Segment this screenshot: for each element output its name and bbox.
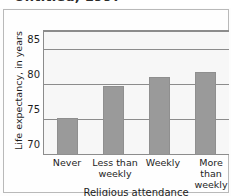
x-tick-label-line: weekly [91, 168, 139, 179]
bar-slot [137, 32, 183, 155]
y-tick-label: 80 [27, 68, 40, 79]
x-tick-label: Less thanweekly [91, 157, 139, 190]
y-tick-label: 85 [27, 33, 40, 44]
chart-figure: Untitled, 1997 Life expectancy, in years… [0, 0, 231, 196]
plot-area: 70758085 [43, 30, 229, 155]
bar [195, 72, 216, 155]
y-axis-title: Life expectancy, in years [13, 31, 24, 151]
y-tick-label: 70 [27, 139, 40, 150]
bar-slot [90, 32, 136, 155]
clipped-title-strip: Untitled, 1997 [0, 0, 231, 8]
chart-title: Untitled, 1997 [14, 0, 122, 4]
x-tick-label-line: Never [43, 157, 91, 168]
x-axis-tick-labels: NeverLess thanweeklyWeeklyMore thanweekl… [43, 157, 231, 190]
bar [103, 86, 124, 155]
x-tick-label-line: More than [187, 157, 231, 179]
x-tick-label-line: Less than [91, 157, 139, 168]
bar [57, 118, 78, 155]
bar-slot [183, 32, 229, 155]
figure-frame: Life expectancy, in years 70758085 Never… [3, 9, 229, 193]
x-tick-label: Weekly [139, 157, 187, 190]
x-tick-label-line: Weekly [139, 157, 187, 168]
x-tick-label: Never [43, 157, 91, 190]
plot-inner: 70758085 [44, 32, 229, 155]
bar-slot [44, 32, 90, 155]
bar-series [44, 32, 229, 155]
y-tick-label: 75 [27, 103, 40, 114]
bar [149, 77, 170, 155]
x-tick-label: More thanweekly [187, 157, 231, 190]
x-axis-title: Religious attendance [43, 187, 229, 196]
